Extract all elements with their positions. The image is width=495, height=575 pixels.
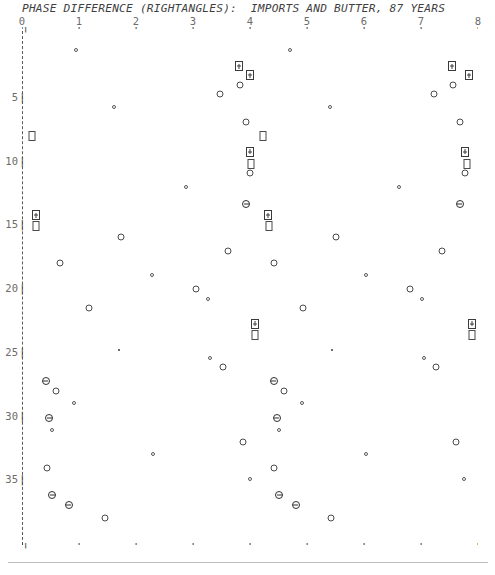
data-point <box>456 119 463 126</box>
x-tick-label-2: 2 <box>133 15 139 27</box>
data-point <box>216 91 223 98</box>
axis-tick-mark: + <box>133 543 140 549</box>
data-point <box>86 305 93 312</box>
data-point <box>101 514 108 521</box>
axis-tick-mark: + <box>361 27 368 33</box>
data-point <box>300 401 304 405</box>
axis-tick-mark: + <box>418 543 425 549</box>
data-point <box>327 514 334 521</box>
y-tick-mark: | <box>19 346 26 357</box>
data-point <box>45 414 53 422</box>
data-point <box>281 388 288 395</box>
data-point <box>72 401 76 405</box>
data-point <box>236 82 243 89</box>
data-point <box>420 297 424 301</box>
y-tick-label-5: 5 <box>12 91 18 102</box>
data-point <box>74 48 78 52</box>
data-point <box>248 159 255 169</box>
data-point <box>328 105 332 109</box>
data-point <box>453 439 460 446</box>
x-tick-label-4: 4 <box>247 15 253 27</box>
data-point <box>465 70 473 80</box>
x-tick-label-5: 5 <box>304 15 310 27</box>
axis-tick-mark: + <box>190 27 197 33</box>
data-point <box>277 428 281 432</box>
data-point <box>206 297 210 301</box>
data-point <box>246 147 254 157</box>
axis-tick-mark: + <box>304 543 311 549</box>
data-point <box>247 170 254 177</box>
data-point <box>243 119 250 126</box>
data-point <box>43 464 50 471</box>
data-point <box>469 330 476 340</box>
bottom-axis: | +++++++++ <box>22 543 478 555</box>
axis-tick-mark: + <box>22 543 25 549</box>
axis-tick-mark: + <box>190 543 197 549</box>
data-point <box>397 185 401 189</box>
data-point <box>184 185 188 189</box>
data-point <box>406 286 413 293</box>
data-point <box>112 105 116 109</box>
axis-tick-mark: + <box>247 27 254 33</box>
scatter-plot-page: PHASE DIFFERENCE (RIGHTANGLES): IMPORTS … <box>0 0 495 575</box>
y-tick-mark: | <box>19 219 26 230</box>
data-point <box>118 349 120 351</box>
data-point <box>275 491 283 499</box>
y-axis-tick-labels: 5|10|15|20|25|30|35| <box>0 0 22 575</box>
x-tick-label-6: 6 <box>361 15 367 27</box>
data-point <box>251 319 259 329</box>
axis-tick-mark: + <box>475 543 478 549</box>
data-point <box>333 234 340 241</box>
axis-tick-mark: + <box>133 27 140 33</box>
x-tick-label-8: 8 <box>475 15 481 27</box>
data-point <box>468 319 476 329</box>
data-point <box>463 159 470 169</box>
data-point <box>456 200 464 208</box>
plot-area <box>0 0 495 575</box>
data-point <box>270 377 278 385</box>
data-point <box>273 414 281 422</box>
data-point <box>300 305 307 312</box>
data-point <box>42 377 50 385</box>
data-point <box>118 234 125 241</box>
y-tick-label-20: 20 <box>5 283 18 294</box>
data-point <box>430 91 437 98</box>
data-point <box>242 200 250 208</box>
data-point <box>33 221 40 231</box>
y-tick-label-15: 15 <box>5 219 18 230</box>
data-point <box>32 210 40 220</box>
data-point <box>288 48 292 52</box>
data-point <box>462 477 466 481</box>
data-point <box>461 147 469 157</box>
axis-tick-mark: + <box>76 543 83 549</box>
data-point <box>219 364 226 371</box>
data-point <box>433 364 440 371</box>
y-tick-mark: | <box>19 283 26 294</box>
y-tick-mark: | <box>19 155 26 166</box>
page-title: PHASE DIFFERENCE (RIGHTANGLES): IMPORTS … <box>22 2 445 15</box>
x-tick-label-1: 1 <box>76 15 82 27</box>
data-point <box>48 491 56 499</box>
data-point <box>450 82 457 89</box>
data-point <box>248 477 252 481</box>
data-point <box>53 388 60 395</box>
data-point <box>246 70 254 80</box>
data-point <box>462 170 469 177</box>
data-point <box>239 439 246 446</box>
y-tick-mark: | <box>19 474 26 485</box>
y-tick-label-10: 10 <box>5 155 18 166</box>
top-axis: | +++++++++ <box>22 27 478 39</box>
x-tick-label-3: 3 <box>190 15 196 27</box>
data-point <box>225 248 232 255</box>
data-point <box>439 248 446 255</box>
data-point <box>251 330 258 340</box>
axis-tick-mark: + <box>76 27 83 33</box>
data-point <box>265 221 272 231</box>
footer-rule <box>8 562 488 563</box>
axis-tick-mark: + <box>247 543 254 549</box>
data-point <box>50 428 54 432</box>
data-point <box>270 464 277 471</box>
data-point <box>150 273 154 277</box>
axis-tick-mark: + <box>304 27 311 33</box>
data-point <box>57 259 64 266</box>
